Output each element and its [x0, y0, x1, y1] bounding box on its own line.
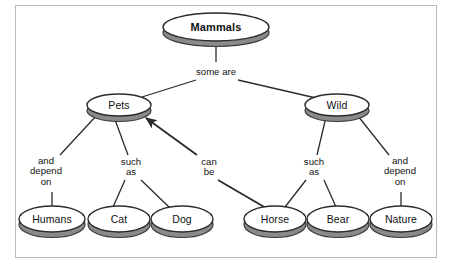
node-dog[interactable] [151, 206, 213, 232]
node-horse[interactable] [244, 206, 306, 232]
node-humans[interactable] [19, 206, 85, 232]
diagram-canvas: MammalsPetsWildHumansCatDogHorseBearNatu… [0, 0, 449, 270]
node-nature[interactable] [370, 206, 432, 232]
node-bear[interactable] [307, 206, 369, 232]
node-cat[interactable] [88, 206, 150, 232]
node-mammals[interactable] [163, 13, 269, 41]
nodes-layer [0, 0, 449, 270]
node-wild[interactable] [305, 94, 369, 116]
node-shapes-group [19, 13, 432, 238]
node-pets[interactable] [87, 94, 151, 116]
